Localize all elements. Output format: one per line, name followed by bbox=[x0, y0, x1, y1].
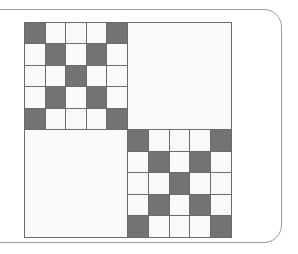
matrix-cell-filled bbox=[128, 216, 148, 237]
matrix-cell-empty bbox=[46, 23, 66, 43]
matrix-cell-empty bbox=[211, 152, 231, 173]
matrix-cell-empty bbox=[149, 173, 169, 194]
matrix-cell-empty bbox=[128, 152, 148, 173]
matrix-cell-empty bbox=[170, 130, 190, 151]
figure-root bbox=[0, 0, 298, 254]
matrix-cell-filled bbox=[107, 109, 127, 129]
matrix-cell-filled bbox=[25, 23, 45, 43]
block-diagonal-matrix bbox=[24, 22, 232, 238]
matrix-cell-empty bbox=[46, 66, 66, 86]
matrix-cell-empty bbox=[128, 173, 148, 194]
matrix-cell-filled bbox=[87, 87, 107, 107]
matrix-cell-empty bbox=[211, 173, 231, 194]
matrix-cell-empty bbox=[170, 152, 190, 173]
matrix-cell-empty bbox=[25, 66, 45, 86]
matrix-block-top-right bbox=[128, 23, 231, 130]
matrix-cell-empty bbox=[66, 23, 86, 43]
matrix-cell-empty bbox=[87, 66, 107, 86]
matrix-cell-filled bbox=[211, 216, 231, 237]
matrix-cell-filled bbox=[190, 152, 210, 173]
matrix-cell-filled bbox=[170, 173, 190, 194]
matrix-cell-filled bbox=[128, 130, 148, 151]
matrix-cell-filled bbox=[190, 195, 210, 216]
matrix-cell-empty bbox=[107, 44, 127, 64]
matrix-cell-empty bbox=[46, 109, 66, 129]
matrix-cell-filled bbox=[25, 109, 45, 129]
matrix-cell-empty bbox=[190, 173, 210, 194]
matrix-cell-empty bbox=[149, 130, 169, 151]
matrix-cell-filled bbox=[211, 130, 231, 151]
matrix-cell-empty bbox=[87, 23, 107, 43]
matrix-block-bottom-right bbox=[128, 130, 231, 237]
matrix-cell-empty bbox=[25, 44, 45, 64]
matrix-cell-empty bbox=[190, 216, 210, 237]
matrix-cell-empty bbox=[66, 44, 86, 64]
matrix-cell-filled bbox=[46, 44, 66, 64]
matrix-cell-filled bbox=[87, 44, 107, 64]
matrix-cell-empty bbox=[87, 109, 107, 129]
matrix-block-bottom-left bbox=[25, 130, 128, 237]
matrix-cell-filled bbox=[149, 152, 169, 173]
matrix-cell-empty bbox=[149, 216, 169, 237]
matrix-cell-filled bbox=[66, 66, 86, 86]
matrix-cell-filled bbox=[46, 87, 66, 107]
matrix-cell-filled bbox=[107, 23, 127, 43]
matrix-cell-empty bbox=[107, 87, 127, 107]
matrix-cell-empty bbox=[25, 87, 45, 107]
matrix-cell-empty bbox=[66, 109, 86, 129]
matrix-cell-empty bbox=[170, 195, 190, 216]
matrix-block-top-left bbox=[25, 23, 128, 130]
matrix-cell-empty bbox=[211, 195, 231, 216]
matrix-cell-empty bbox=[128, 195, 148, 216]
matrix-cell-filled bbox=[149, 195, 169, 216]
matrix-cell-empty bbox=[170, 216, 190, 237]
matrix-cell-empty bbox=[107, 66, 127, 86]
matrix-cell-empty bbox=[66, 87, 86, 107]
matrix-cell-empty bbox=[190, 130, 210, 151]
